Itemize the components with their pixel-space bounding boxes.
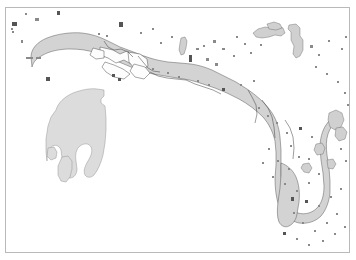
speck	[12, 31, 14, 33]
speck	[112, 74, 115, 77]
island-manus	[179, 37, 187, 55]
speck	[244, 43, 246, 45]
speck	[314, 230, 316, 232]
speck	[189, 55, 192, 62]
speck	[318, 173, 320, 175]
speck	[296, 238, 298, 240]
speck	[341, 48, 343, 50]
speck	[250, 52, 252, 54]
island-new-ireland	[288, 24, 303, 58]
speck	[21, 40, 23, 43]
west-papua-body	[46, 89, 106, 178]
speck	[240, 84, 242, 86]
speck	[337, 81, 339, 83]
island-goodenough	[328, 110, 344, 130]
speck	[222, 48, 225, 50]
speck	[236, 36, 238, 38]
speck	[206, 58, 209, 61]
speck	[344, 92, 346, 94]
speck	[12, 22, 17, 26]
speck	[345, 160, 347, 162]
speck	[328, 40, 330, 42]
speck	[290, 145, 292, 147]
speck	[311, 136, 313, 138]
speck	[308, 182, 310, 184]
speck	[140, 32, 142, 34]
west-papua-tiny-island	[47, 147, 57, 160]
speck	[253, 80, 255, 82]
speck	[118, 78, 121, 81]
speck	[293, 212, 295, 214]
speck	[288, 168, 290, 170]
speck	[330, 196, 332, 198]
speck	[334, 233, 336, 235]
speck	[322, 240, 324, 242]
speck	[326, 73, 328, 75]
speck	[310, 45, 313, 48]
speck	[272, 176, 274, 178]
speck	[340, 148, 342, 150]
speck	[284, 183, 286, 185]
speck	[160, 42, 162, 44]
island-new-britain-east	[267, 22, 282, 30]
speck	[340, 188, 342, 190]
speck	[308, 158, 310, 160]
speck	[233, 55, 235, 57]
speck	[119, 22, 123, 27]
speck	[267, 115, 269, 117]
speck	[213, 40, 216, 43]
speck	[318, 54, 320, 56]
speck	[25, 13, 27, 15]
speck	[336, 213, 338, 215]
speck	[98, 33, 100, 35]
speck	[222, 88, 225, 91]
speck	[277, 160, 279, 162]
island-fergusson	[335, 127, 347, 141]
region-west-papua-block	[46, 89, 106, 182]
map-svg	[0, 0, 356, 260]
speck	[258, 107, 260, 109]
speck	[171, 36, 173, 38]
speck	[276, 122, 278, 124]
speck	[298, 156, 300, 158]
speck	[11, 28, 13, 30]
speck	[286, 132, 288, 134]
speck	[347, 104, 349, 106]
speck	[268, 148, 270, 150]
speck	[167, 72, 169, 74]
speck	[203, 45, 205, 47]
speck	[305, 200, 308, 203]
speck	[345, 36, 347, 38]
speck	[152, 28, 154, 30]
speck	[315, 66, 317, 68]
map-container	[0, 0, 356, 260]
speck	[344, 226, 346, 228]
speck	[318, 205, 320, 207]
speck	[46, 77, 50, 81]
speck	[152, 68, 154, 70]
speck	[197, 80, 199, 82]
speck	[57, 11, 60, 15]
speck	[262, 162, 264, 164]
island-misima	[301, 163, 312, 173]
speck	[308, 244, 310, 246]
speck	[326, 222, 328, 224]
speck	[302, 222, 304, 224]
speck	[35, 18, 39, 21]
speck	[283, 232, 286, 235]
speck	[106, 35, 108, 37]
speck	[178, 76, 180, 78]
island-woodlark	[327, 159, 336, 169]
speck	[299, 127, 302, 130]
speck	[196, 48, 199, 50]
speck	[215, 63, 218, 66]
speck	[26, 57, 33, 59]
speck	[36, 57, 41, 59]
islands-bismarck	[179, 22, 303, 58]
speck	[291, 197, 294, 201]
province-border-7	[285, 120, 294, 159]
speck	[208, 84, 210, 86]
speck	[296, 190, 298, 192]
speck	[260, 44, 262, 46]
